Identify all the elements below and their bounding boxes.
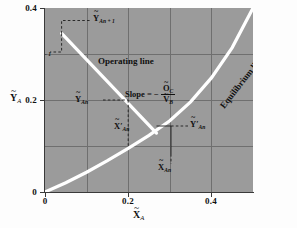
y-an-prime-subscript: An	[199, 124, 206, 130]
x-an-minus-1-subscript: An − 1	[45, 51, 51, 57]
x-an-subscript: An	[164, 167, 171, 173]
y-an-symbol: ~Y	[75, 94, 81, 104]
label-x-an-prime: ~X′An	[114, 121, 129, 132]
label-x-an-minus-1: ~XAn − 1	[45, 46, 51, 57]
y-an-plus-1-subscript: An + 1	[99, 18, 115, 24]
label-y-an-prime: ~Y′An	[190, 119, 205, 130]
x-axis-title: ~XA	[133, 209, 144, 221]
leader-y-an-plus-1	[62, 21, 90, 34]
slope-denominator: ~VB	[161, 95, 175, 105]
tilde-accent: ~	[75, 89, 81, 97]
y-an-subscript: An	[81, 99, 88, 105]
y-an-plus-1-symbol: ~Y	[93, 13, 99, 23]
slope-prefix: Slope = −	[125, 89, 159, 99]
x-tick-label: 0	[30, 196, 60, 206]
label-x-an: ~XAn	[158, 162, 171, 173]
tilde-accent: ~	[114, 116, 120, 124]
x-tick-label: 0.4	[196, 196, 226, 206]
y-tick-label: 0.4	[11, 3, 37, 13]
x-an-symbol: ~X	[158, 162, 164, 172]
label-y-an-plus-1: ~YAn + 1	[93, 13, 115, 24]
label-y-an: ~YAn	[75, 94, 88, 105]
tilde-accent: ~	[163, 91, 169, 99]
x-axis-symbol: ~X	[133, 209, 140, 220]
slope-denominator-subscript: B	[169, 99, 173, 105]
v-b-symbol: ~V	[163, 95, 169, 104]
slope-fraction: ~OC ~VB	[161, 84, 175, 106]
x-an-prime-symbol: ~X	[114, 121, 120, 131]
y-axis-symbol: ~Y	[10, 92, 17, 103]
tilde-accent: ~	[93, 8, 99, 16]
y-tick-mark	[40, 8, 45, 9]
x-axis-subscript: A	[140, 214, 144, 221]
y-axis-title: ~YA	[10, 92, 21, 104]
leader-x-an-minus-1	[50, 34, 62, 53]
plot-area: ~YAn + 1 ~XAn − 1 Operating line Slope =…	[45, 8, 253, 192]
tilde-accent: ~	[163, 79, 170, 87]
y-an-prime-symbol: ~Y	[190, 119, 196, 129]
tilde-accent: ~	[133, 204, 140, 214]
tilde-accent: ~	[190, 114, 196, 122]
figure-container: ~YAn + 1 ~XAn − 1 Operating line Slope =…	[0, 0, 297, 228]
slope-numerator-subscript: C	[170, 88, 174, 94]
y-axis-subscript: A	[17, 97, 21, 104]
x-axis-line	[44, 192, 254, 193]
y-tick-mark	[40, 100, 45, 101]
tilde-accent: ~	[158, 157, 164, 165]
label-operating-line: Operating line	[98, 56, 154, 66]
x-an-prime-subscript: An	[123, 126, 130, 132]
tilde-accent: ~	[10, 87, 17, 97]
label-slope: Slope = − ~OC ~VB	[125, 84, 175, 106]
